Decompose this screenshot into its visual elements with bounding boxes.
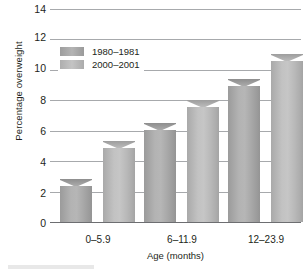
- y-tick-label-12: 12: [22, 32, 46, 43]
- y-tick-label-2: 2: [22, 188, 46, 199]
- chart-figure: Percentage overweight 14 12 10 8 6 4 2 0: [0, 0, 306, 272]
- x-axis-title: Age (months): [50, 250, 301, 261]
- legend-item-2000-2001: 2000–2001: [60, 58, 140, 71]
- gridline-14: [50, 9, 301, 10]
- gridline-8: [50, 100, 301, 101]
- bar-1980-1981-0-5.9: [60, 179, 92, 222]
- x-tick-label-12-23.9: 12–23.9: [225, 234, 306, 245]
- plot-area: [50, 6, 301, 228]
- bar-2000-2001-0-5.9: [103, 141, 135, 222]
- y-tick-label-8: 8: [22, 95, 46, 106]
- legend-item-1980-1981: 1980–1981: [60, 45, 140, 58]
- legend-swatch-icon-1980-1981: [60, 47, 84, 56]
- bar-body: [187, 107, 219, 222]
- legend-label-2000-2001: 2000–2001: [92, 59, 140, 70]
- bar-body: [60, 186, 92, 222]
- bar-1980-1981-12-23.9: [228, 79, 260, 222]
- bar-body: [271, 61, 303, 222]
- legend: 1980–1981 2000–2001: [58, 43, 144, 73]
- gridline-12: [50, 39, 301, 40]
- y-tick-label-10: 10: [22, 63, 46, 74]
- y-tick-label-6: 6: [22, 126, 46, 137]
- y-tick-label-14: 14: [22, 4, 46, 15]
- bar-body: [103, 148, 135, 222]
- bar-2000-2001-6-11.9: [187, 100, 219, 222]
- x-tick-label-6-11.9: 6–11.9: [141, 234, 223, 245]
- x-axis-baseline: [50, 222, 301, 223]
- page-edge-artifact: [8, 265, 94, 269]
- y-tick-label-0: 0: [22, 218, 46, 229]
- bar-2000-2001-12-23.9: [271, 54, 303, 222]
- bar-body: [228, 86, 260, 222]
- bar-1980-1981-6-11.9: [144, 123, 176, 222]
- x-tick-label-0-5.9: 0–5.9: [57, 234, 139, 245]
- legend-label-1980-1981: 1980–1981: [92, 46, 140, 57]
- y-tick-label-4: 4: [22, 157, 46, 168]
- bar-body: [144, 130, 176, 222]
- legend-swatch-icon-2000-2001: [60, 60, 84, 69]
